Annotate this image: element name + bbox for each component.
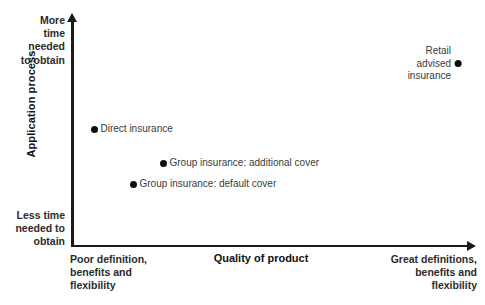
data-point-marker — [455, 60, 462, 67]
data-point-label: Retail advised insurance — [408, 45, 451, 83]
y-axis-line — [71, 21, 74, 247]
data-point[interactable]: Group insurance: default cover — [130, 178, 277, 191]
data-point-marker — [91, 126, 98, 133]
y-axis-bottom-caption: Less time needed to obtain — [0, 209, 65, 249]
data-point[interactable]: Direct insurance — [91, 123, 173, 136]
scatter-chart: More time needed to obtain Less time nee… — [0, 0, 485, 305]
x-axis-line — [71, 245, 469, 248]
data-point-label: Group insurance: additional cover — [170, 157, 320, 170]
data-point-label: Direct insurance — [101, 123, 173, 136]
y-axis-title: Application process — [25, 29, 37, 179]
x-axis-arrowhead-icon — [467, 241, 476, 251]
x-axis-title: Quality of product — [163, 252, 359, 264]
data-point[interactable]: Retail advised insurance — [408, 45, 462, 83]
data-point-marker — [160, 160, 167, 167]
data-point[interactable]: Group insurance: additional cover — [160, 157, 320, 170]
data-point-label: Group insurance: default cover — [140, 178, 277, 191]
data-point-marker — [130, 181, 137, 188]
y-axis-arrowhead-icon — [67, 13, 77, 22]
